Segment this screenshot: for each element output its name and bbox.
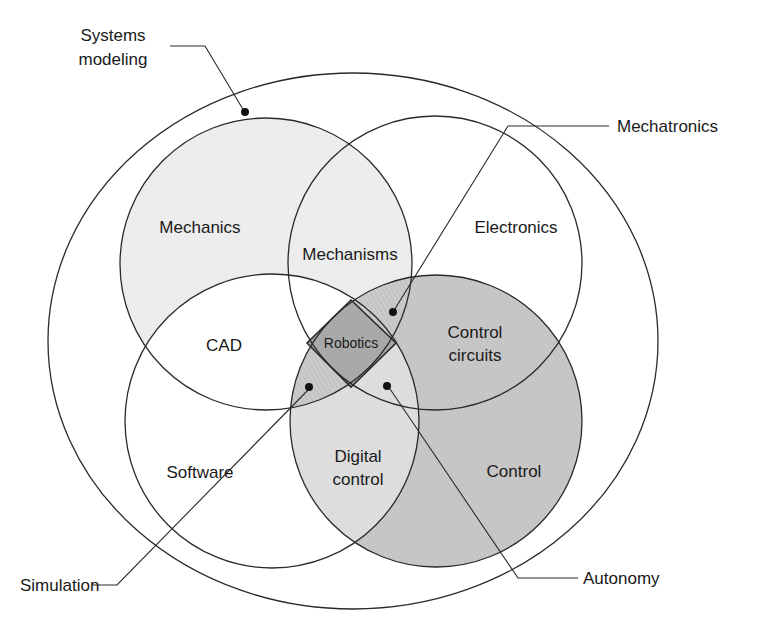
venn-diagram: Systems modeling Mechatronics Mechanics … [0, 0, 775, 633]
mechatronics-dot [389, 308, 397, 316]
control-label: Control [487, 462, 542, 481]
simulation-dot [305, 383, 313, 391]
robotics-label: Robotics [324, 335, 378, 351]
control-circuits-label-line2: circuits [449, 346, 502, 365]
control-circuits-label-line1: Control [448, 323, 503, 342]
systems-modeling-label-line1: Systems [80, 26, 145, 45]
software-label: Software [166, 463, 233, 482]
autonomy-dot [383, 382, 391, 390]
cad-label: CAD [206, 336, 242, 355]
autonomy-label: Autonomy [583, 569, 660, 588]
mechatronics-label: Mechatronics [617, 117, 718, 136]
electronics-label: Electronics [474, 218, 557, 237]
simulation-label: Simulation [20, 576, 99, 595]
systems-modeling-dot [241, 108, 249, 116]
systems-modeling-label-line2: modeling [79, 50, 148, 69]
digital-control-label-line1: Digital [334, 447, 381, 466]
mechanics-label: Mechanics [159, 218, 240, 237]
digital-control-label-line2: control [332, 470, 383, 489]
systems-modeling-leader [170, 46, 244, 111]
mechanisms-label: Mechanisms [302, 245, 397, 264]
